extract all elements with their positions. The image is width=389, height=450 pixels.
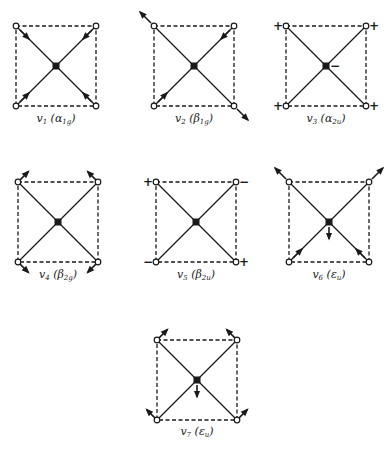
ligand-atom: [233, 259, 239, 265]
central-minus-sign: −: [330, 59, 340, 73]
displacement-arrow: [237, 109, 248, 120]
ligand-atom: [363, 23, 369, 29]
mode-diagram-v3: ++++−: [273, 19, 379, 113]
out-of-plane-sign: +: [369, 99, 379, 113]
central-atom: [326, 219, 333, 226]
out-of-plane-sign: +: [369, 19, 379, 33]
central-atom: [193, 219, 200, 226]
symmetry-subscript: 1g: [62, 118, 71, 126]
ligand-atom: [286, 179, 292, 185]
central-atom: [191, 63, 198, 70]
mode-index: 2: [181, 118, 185, 126]
displacement-arrow: [88, 264, 96, 272]
displacement-arrow: [140, 12, 151, 23]
displacement-arrow: [20, 93, 29, 102]
mode-index: 6: [319, 274, 323, 282]
symmetry-letter: α: [55, 112, 62, 125]
ligand-atom: [13, 23, 19, 29]
ligand-atom: [154, 417, 160, 423]
ligand-atom: [366, 259, 372, 265]
mode-diagram-v1: [13, 23, 99, 109]
mode-caption-v3: v3 (α2u): [306, 112, 345, 126]
symmetry-subscript: 2u: [332, 118, 341, 126]
central-atom: [55, 219, 62, 226]
mode-index: 7: [187, 431, 191, 439]
mode-caption-v1: v1 (α1g): [36, 112, 75, 126]
ligand-atom: [231, 103, 237, 109]
ligand-atom: [231, 23, 237, 29]
ligand-atom: [283, 103, 289, 109]
displacement-arrow: [356, 249, 365, 258]
symmetry-subscript: 2g: [64, 274, 73, 282]
displacement-arrow: [20, 172, 28, 180]
ligand-atom: [283, 23, 289, 29]
mode-diagram-v7: [147, 330, 248, 423]
mode-diagram-v2: [140, 12, 248, 120]
displacement-arrow: [372, 168, 383, 179]
displacement-arrow: [20, 264, 28, 272]
ligand-atom: [234, 337, 240, 343]
out-of-plane-sign: −: [143, 255, 153, 269]
out-of-plane-sign: −: [239, 175, 249, 189]
ligand-atom: [93, 23, 99, 29]
out-of-plane-sign: +: [143, 175, 153, 189]
mode-caption-v7: v7 (εu): [180, 425, 213, 439]
mode-diagram-canvas: ++++−+−−+: [0, 0, 389, 450]
out-of-plane-sign: +: [273, 99, 283, 113]
ligand-atom: [286, 259, 292, 265]
symmetry-letter: α: [325, 112, 332, 125]
ligand-atom: [234, 417, 240, 423]
symmetry-subscript: u: [205, 431, 210, 439]
displacement-arrow: [293, 249, 302, 258]
ligand-atom: [363, 103, 369, 109]
mode-caption-v6: v6 (εu): [312, 268, 345, 282]
mode-caption-v4: v4 (β2g): [39, 268, 77, 282]
central-atom: [194, 377, 201, 384]
displacement-arrow: [221, 30, 230, 39]
out-of-plane-sign: +: [239, 255, 249, 269]
ligand-atom: [95, 179, 101, 185]
symmetry-subscript: u: [337, 274, 342, 282]
displacement-arrow: [88, 172, 96, 180]
displacement-arrow: [275, 168, 286, 179]
mode-diagram-v6: [275, 168, 383, 265]
symmetry-subscript: 1g: [200, 118, 209, 126]
mode-index: 1: [43, 118, 47, 126]
ligand-atom: [15, 259, 21, 265]
ligand-atom: [154, 337, 160, 343]
displacement-arrow: [158, 93, 167, 102]
mode-index: 3: [313, 118, 317, 126]
mode-diagram-v4: [15, 172, 101, 273]
displacement-arrow: [227, 330, 235, 338]
ligand-atom: [151, 23, 157, 29]
ligand-atom: [153, 259, 159, 265]
mode-index: 5: [183, 274, 187, 282]
displacement-arrow: [83, 93, 92, 102]
ligand-atom: [95, 259, 101, 265]
out-of-plane-sign: +: [273, 19, 283, 33]
ligand-atom: [153, 179, 159, 185]
central-atom: [53, 63, 60, 70]
symmetry-subscript: 2u: [202, 274, 211, 282]
mode-caption-v2: v2 (β1g): [175, 112, 213, 126]
displacement-arrow: [147, 410, 155, 418]
displacement-arrow: [83, 30, 92, 39]
ligand-atom: [233, 179, 239, 185]
ligand-atom: [366, 179, 372, 185]
mode-diagram-v5: +−−+: [143, 175, 249, 269]
ligand-atom: [93, 103, 99, 109]
ligand-atom: [15, 179, 21, 185]
mode-index: 4: [45, 274, 49, 282]
displacement-arrow: [20, 30, 29, 39]
displacement-arrow: [239, 410, 247, 418]
mode-caption-v5: v5 (β2u): [177, 268, 215, 282]
ligand-atom: [13, 103, 19, 109]
central-atom: [323, 63, 330, 70]
ligand-atom: [151, 103, 157, 109]
displacement-arrow: [159, 330, 167, 338]
